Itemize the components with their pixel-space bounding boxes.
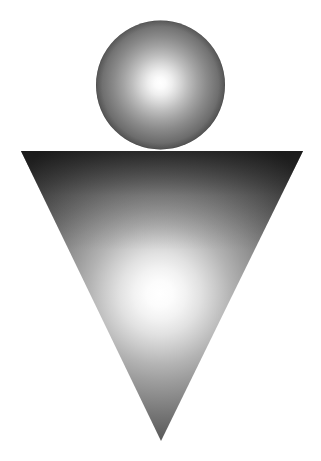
figure-svg: [0, 0, 321, 461]
sphere-rim-shade: [96, 21, 225, 150]
sphere: [96, 21, 225, 150]
figure-canvas: Abstract Figure: [0, 0, 321, 461]
